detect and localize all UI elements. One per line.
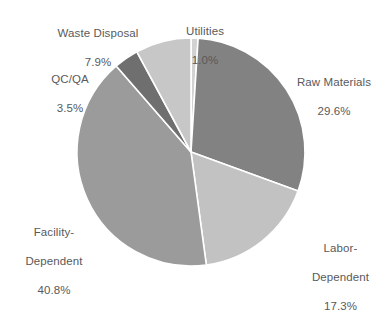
slice-label-labor-dependent-percent: 17.3%: [292, 299, 389, 314]
pie-slice-group: [77, 38, 305, 266]
